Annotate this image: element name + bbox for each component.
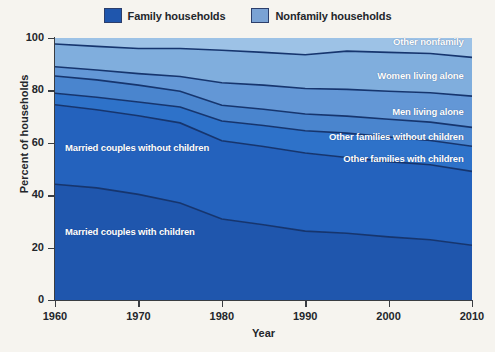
- x-tick-1990: [305, 301, 306, 307]
- y-tick-label-20: 20: [0, 242, 44, 253]
- x-tick-label-1960: 1960: [25, 310, 85, 322]
- series-label-married-couples-without-children: Married couples without children: [65, 142, 209, 153]
- y-tick-60: [48, 143, 54, 144]
- y-tick-label-0: 0: [0, 294, 44, 305]
- x-tick-2010: [472, 301, 473, 307]
- y-tick-0: [48, 300, 54, 301]
- y-tick-80: [48, 90, 54, 91]
- x-tick-2000: [389, 301, 390, 307]
- x-tick-1980: [222, 301, 223, 307]
- y-axis-line: [54, 37, 55, 301]
- legend-item-nonfamily-households[interactable]: Nonfamily households: [251, 8, 391, 23]
- legend-swatch-nonfamily-households: [251, 8, 269, 23]
- series-label-men-living-alone: Men living alone: [392, 106, 464, 117]
- legend-label-family-households: Family households: [128, 10, 226, 22]
- series-label-other-families-with-children: Other families with children: [343, 153, 463, 164]
- x-tick-label-1970: 1970: [108, 310, 168, 322]
- series-label-women-living-alone: Women living alone: [377, 70, 463, 81]
- legend-label-nonfamily-households: Nonfamily households: [275, 10, 391, 22]
- chart-legend: Family households Nonfamily households: [0, 8, 495, 23]
- y-tick-40: [48, 195, 54, 196]
- series-label-other-nonfamily: Other nonfamily: [393, 36, 464, 47]
- y-tick-label-100: 100: [0, 32, 44, 43]
- y-tick-100: [48, 38, 54, 39]
- x-tick-1970: [138, 301, 139, 307]
- chart-root: Family households Nonfamily households M…: [0, 0, 495, 352]
- x-tick-1960: [55, 301, 56, 307]
- series-label-married-couples-with-children: Married couples with children: [65, 226, 195, 237]
- x-axis-title: Year: [55, 327, 472, 339]
- legend-item-family-households[interactable]: Family households: [104, 8, 226, 23]
- x-axis-line: [54, 300, 473, 301]
- y-axis-title: Percent of households: [18, 64, 30, 204]
- x-tick-label-1980: 1980: [192, 310, 252, 322]
- y-tick-20: [48, 248, 54, 249]
- x-tick-label-1990: 1990: [275, 310, 335, 322]
- legend-swatch-family-households: [104, 8, 122, 23]
- x-tick-label-2010: 2010: [442, 310, 495, 322]
- series-label-other-families-without-children: Other families without children: [329, 131, 464, 142]
- x-tick-label-2000: 2000: [359, 310, 419, 322]
